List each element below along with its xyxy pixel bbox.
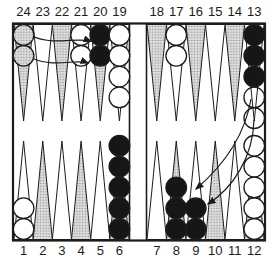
point-number-1: 1 xyxy=(20,243,27,258)
point-number-8: 8 xyxy=(173,243,180,258)
point-15-triangle xyxy=(206,25,226,122)
backgammon-diagram-page: 242322212019181716151413123456789101112 xyxy=(0,0,273,259)
black-checker-point-8 xyxy=(166,177,187,198)
black-checker-point-6 xyxy=(109,198,130,219)
point-number-18: 18 xyxy=(150,4,164,19)
point-number-24: 24 xyxy=(16,4,30,19)
black-checker-point-8 xyxy=(166,219,187,240)
point-14-triangle xyxy=(225,25,245,122)
white-checker-point-12 xyxy=(244,177,265,198)
point-4-triangle xyxy=(72,141,91,240)
black-checker-point-13 xyxy=(244,46,265,67)
black-checker-point-8 xyxy=(166,198,187,219)
move-arrow-13-to-9 xyxy=(196,99,251,189)
black-checker-point-6 xyxy=(109,156,130,177)
point-number-12: 12 xyxy=(247,243,261,258)
point-number-5: 5 xyxy=(97,243,104,258)
point-22-triangle xyxy=(52,25,71,122)
white-checker-point-19 xyxy=(109,25,130,46)
black-checker-point-6 xyxy=(109,177,130,198)
point-number-13: 13 xyxy=(247,4,261,19)
point-7-triangle xyxy=(147,141,167,240)
point-5-triangle xyxy=(91,141,110,240)
point-number-22: 22 xyxy=(55,4,69,19)
point-number-14: 14 xyxy=(228,4,242,19)
ghost-shaded-checker-point-24 xyxy=(13,25,34,46)
point-number-15: 15 xyxy=(208,4,222,19)
point-number-2: 2 xyxy=(39,243,46,258)
black-checker-point-6 xyxy=(109,219,130,240)
point-number-17: 17 xyxy=(169,4,183,19)
white-checker-point-19 xyxy=(109,46,130,67)
white-checker-point-21 xyxy=(71,25,92,46)
point-number-16: 16 xyxy=(189,4,203,19)
point-3-triangle xyxy=(52,141,71,240)
point-number-23: 23 xyxy=(36,4,50,19)
point-number-21: 21 xyxy=(74,4,88,19)
point-number-7: 7 xyxy=(153,243,160,258)
black-checker-point-13 xyxy=(244,25,265,46)
black-checker-point-6 xyxy=(109,136,130,157)
white-checker-point-12 xyxy=(244,219,265,240)
point-10-triangle xyxy=(206,141,226,240)
black-checker-point-13 xyxy=(244,66,265,87)
white-checker-point-12 xyxy=(244,136,265,157)
black-checker-point-20 xyxy=(90,25,111,46)
white-checker-point-1 xyxy=(13,219,34,240)
white-checker-point-19 xyxy=(109,66,130,87)
point-2-triangle xyxy=(33,141,52,240)
point-number-11: 11 xyxy=(228,243,242,258)
white-checker-point-12 xyxy=(244,198,265,219)
white-checker-point-17 xyxy=(166,25,187,46)
point-number-4: 4 xyxy=(77,243,84,258)
point-18-triangle xyxy=(147,25,167,122)
black-checker-point-9 xyxy=(185,198,206,219)
point-11-triangle xyxy=(225,141,245,240)
black-checker-point-20 xyxy=(90,46,111,67)
white-checker-point-17 xyxy=(166,46,187,67)
white-checker-point-1 xyxy=(13,198,34,219)
black-checker-point-9 xyxy=(185,219,206,240)
point-number-20: 20 xyxy=(93,4,107,19)
white-checker-point-12 xyxy=(244,156,265,177)
point-number-6: 6 xyxy=(116,243,123,258)
point-16-triangle xyxy=(186,25,206,122)
ghost-shaded-checker-point-24 xyxy=(13,46,34,67)
white-checker-point-21 xyxy=(71,46,92,67)
point-number-9: 9 xyxy=(192,243,199,258)
white-checker-point-19 xyxy=(109,87,130,108)
point-number-10: 10 xyxy=(208,243,222,258)
point-number-3: 3 xyxy=(58,243,65,258)
board-frame xyxy=(13,24,265,241)
backgammon-board: 242322212019181716151413123456789101112 xyxy=(0,0,273,259)
point-number-19: 19 xyxy=(112,4,126,19)
